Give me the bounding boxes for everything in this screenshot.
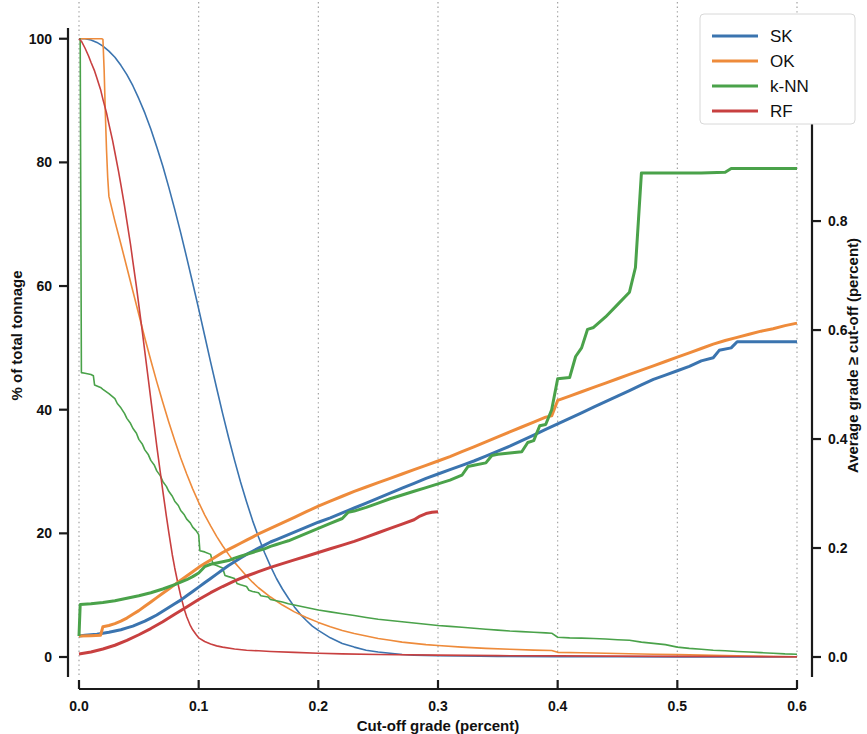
cut-off-grade-tonnage-chart: 020406080100% of total tonnage0.00.20.40…: [0, 0, 867, 734]
ytick-label-60: 60: [36, 278, 52, 294]
y2tick-label-0.8: 0.8: [828, 213, 848, 229]
xtick-label-0.2: 0.2: [309, 698, 329, 714]
xtick-label-0.4: 0.4: [548, 698, 568, 714]
y2tick-label-0.2: 0.2: [828, 540, 848, 556]
xtick-label-0.0: 0.0: [69, 698, 89, 714]
x-axis-label: Cut-off grade (percent): [357, 717, 520, 734]
legend-label-k-nn: k-NN: [770, 77, 809, 96]
ytick-label-20: 20: [36, 525, 52, 541]
legend-label-sk: SK: [770, 27, 793, 46]
xtick-label-0.5: 0.5: [668, 698, 688, 714]
xtick-label-0.1: 0.1: [189, 698, 209, 714]
xtick-label-0.6: 0.6: [787, 698, 807, 714]
chart-figure: 020406080100% of total tonnage0.00.20.40…: [0, 0, 867, 734]
legend-label-rf: RF: [770, 102, 793, 121]
ytick-label-100: 100: [29, 31, 53, 47]
legend-label-ok: OK: [770, 52, 795, 71]
ytick-label-0: 0: [44, 649, 52, 665]
y2tick-label-0.0: 0.0: [828, 649, 848, 665]
xtick-label-0.3: 0.3: [428, 698, 448, 714]
y-axis-label: % of total tonnage: [8, 271, 25, 401]
ytick-label-80: 80: [36, 154, 52, 170]
ytick-label-40: 40: [36, 402, 52, 418]
y2-axis-label: Average grade ≥ cut-off (percent): [844, 238, 861, 473]
